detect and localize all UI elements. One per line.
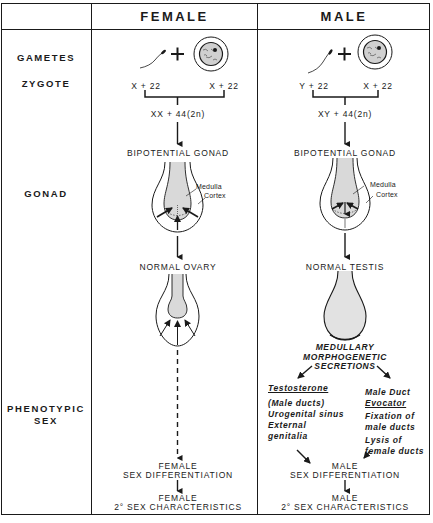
male-sex-diff-line2: SEX DIFFERENTIATION — [268, 471, 422, 480]
female-egg-chromosomes: X + 22 — [204, 81, 244, 91]
male-zygote-bracket — [313, 90, 378, 105]
testosterone-title: Testosterone — [268, 383, 344, 394]
male-medulla-label: Medulla — [370, 181, 396, 188]
secretions-line3: SECRETIONS — [290, 362, 400, 372]
testosterone-line2: Urogenital sinus — [268, 409, 344, 420]
female-normal-ovary-label: NORMAL OVARY — [130, 262, 226, 272]
female-medulla-label: Medulla — [196, 183, 222, 190]
female-sex-diff-line2: SEX DIFFERENTIATION — [102, 471, 254, 480]
female-zygote-karyotype: XX + 44(2n) — [137, 109, 219, 119]
duct-evocator-line1: Fixation of — [365, 411, 424, 422]
plus-icon — [171, 48, 184, 61]
female-sex-differentiation: FEMALE SEX DIFFERENTIATION — [102, 462, 254, 480]
egg-cell-icon — [194, 37, 228, 71]
testosterone-line1: (Male ducts) — [268, 398, 344, 409]
sperm-icon — [308, 49, 333, 73]
testosterone-line4: genitalia — [268, 431, 344, 442]
duct-evocator-title-line2: Evocator — [365, 398, 424, 409]
female-cortex-label: Cortex — [204, 192, 226, 199]
female-sperm-chromosomes: X + 22 — [128, 81, 164, 91]
normal-ovary-icon — [156, 274, 199, 346]
male-sperm-chromosomes: Y + 22 — [296, 81, 332, 91]
duct-evocator-block: Male Duct Evocator Fixation of male duct… — [365, 387, 424, 457]
male-normal-testis-label: NORMAL TESTIS — [294, 262, 396, 272]
medullary-secretions-label: MEDULLARY MORPHOGENETIC SECRETIONS — [290, 343, 400, 372]
testosterone-line3: External — [268, 420, 344, 431]
female-bipotential-gonad-label: BIPOTENTIAL GONAD — [120, 148, 236, 158]
testosterone-block: Testosterone (Male ducts) Urogenital sin… — [268, 383, 344, 442]
plus-icon — [338, 48, 351, 61]
male-bipotential-gonad-icon — [320, 158, 373, 230]
female-zygote-bracket — [145, 90, 224, 105]
duct-evocator-line3: Lysis of — [365, 435, 424, 446]
male-secondary-line2: 2° SEX CHARACTERISTICS — [264, 503, 426, 512]
male-bipotential-gonad-label: BIPOTENTIAL GONAD — [287, 148, 403, 158]
female-secondary-line2: 2° SEX CHARACTERISTICS — [98, 503, 258, 512]
male-gametes — [308, 35, 392, 73]
male-secondary-characteristics: MALE 2° SEX CHARACTERISTICS — [264, 494, 426, 512]
duct-evocator-line2: male ducts — [365, 422, 424, 433]
duct-evocator-title-line1: Male Duct — [365, 387, 424, 398]
normal-testis-icon — [324, 271, 366, 340]
male-cortex-label: Cortex — [376, 191, 398, 198]
male-zygote-karyotype: XY + 44(2n) — [305, 109, 385, 119]
duct-evocator-line4: female ducts — [365, 446, 424, 457]
egg-cell-icon — [358, 35, 392, 69]
male-egg-chromosomes: X + 22 — [358, 81, 398, 91]
female-gametes — [140, 37, 228, 71]
sperm-icon — [140, 49, 167, 68]
male-sex-differentiation: MALE SEX DIFFERENTIATION — [268, 462, 422, 480]
female-bipotential-gonad-icon — [152, 162, 205, 232]
female-secondary-characteristics: FEMALE 2° SEX CHARACTERISTICS — [98, 494, 258, 512]
